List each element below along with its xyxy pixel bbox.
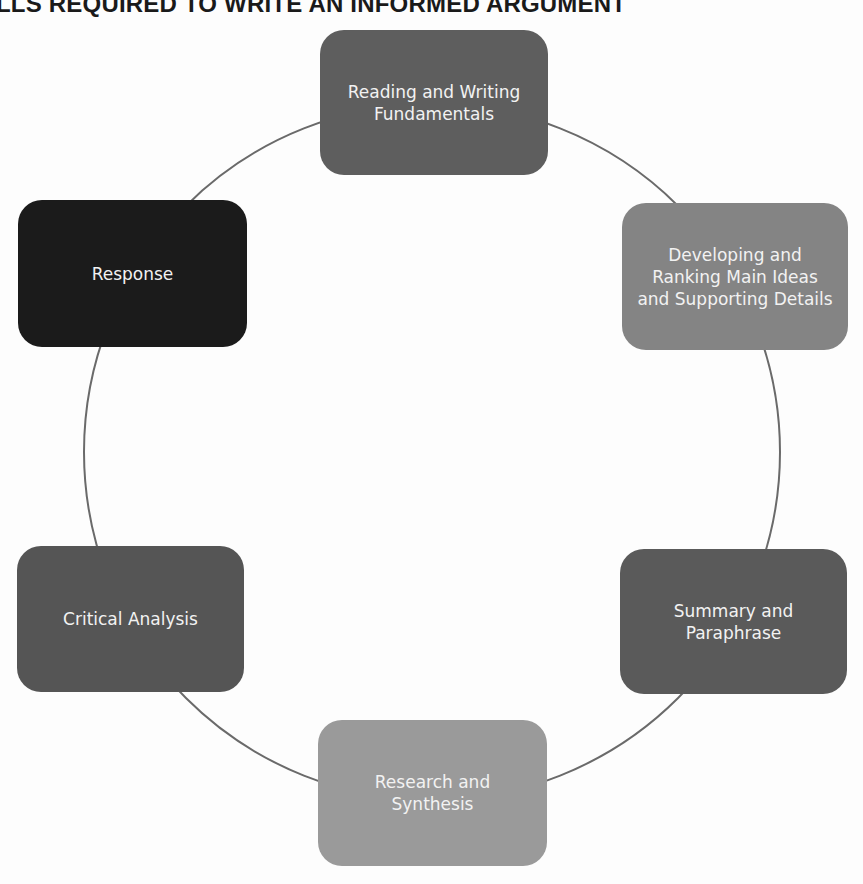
node-summary-paraphrase: Summary and Paraphrase <box>620 549 847 694</box>
node-response: Response <box>18 200 247 347</box>
node-label: Research and Synthesis <box>363 771 502 815</box>
node-label: Critical Analysis <box>63 608 198 630</box>
node-developing-ranking-main-ideas: Developing and Ranking Main Ideas and Su… <box>622 203 848 350</box>
node-label: Response <box>92 263 174 285</box>
node-label: Summary and Paraphrase <box>660 600 807 644</box>
node-critical-analysis: Critical Analysis <box>17 546 244 692</box>
node-label: Developing and Ranking Main Ideas and Su… <box>636 244 834 310</box>
node-label: Reading and Writing Fundamentals <box>334 81 534 125</box>
node-reading-writing-fundamentals: Reading and Writing Fundamentals <box>320 30 548 175</box>
node-research-synthesis: Research and Synthesis <box>318 720 547 866</box>
